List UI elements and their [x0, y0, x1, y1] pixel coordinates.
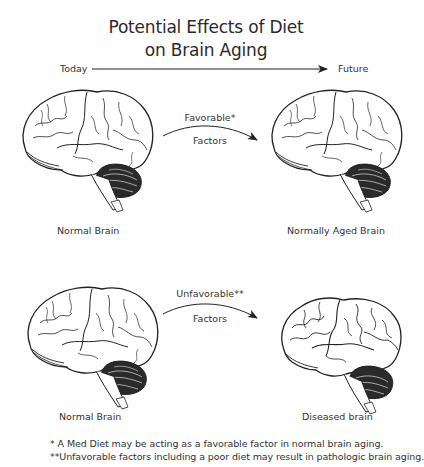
footnote-1: * A Med Diet may be acting as a favorabl…	[50, 438, 383, 449]
row2-right-caption: Diseased brain	[302, 411, 373, 422]
unfavorable-factors-word: Factors	[150, 313, 270, 324]
row2-left-caption: Normal Brain	[59, 411, 121, 422]
diseased-brain-icon	[270, 288, 410, 418]
footnote-2: **Unfavorable factors including a poor d…	[50, 451, 424, 462]
